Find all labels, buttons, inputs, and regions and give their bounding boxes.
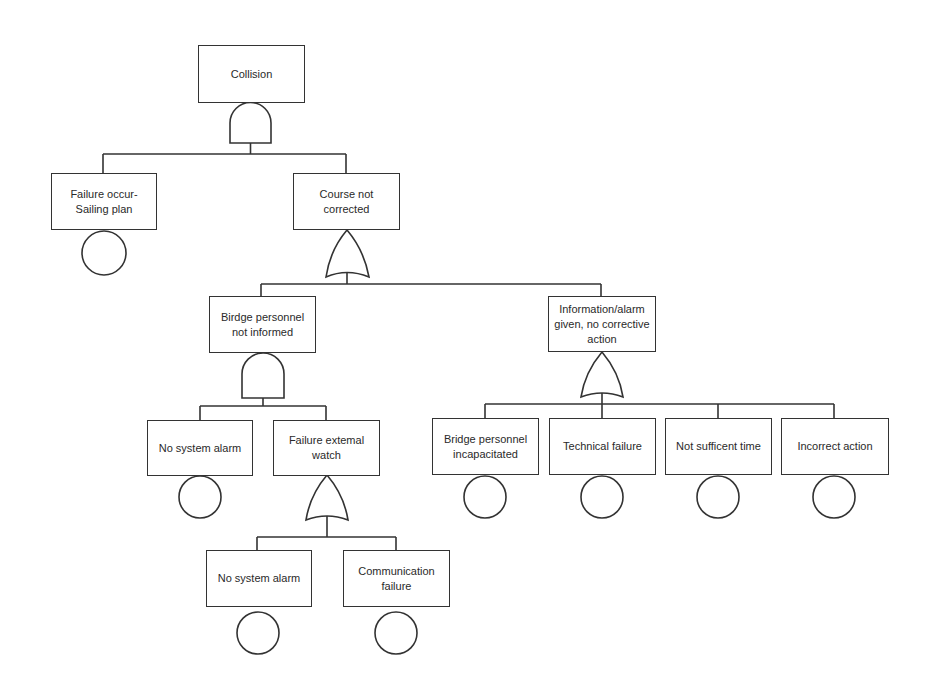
event-failure-external-watch: Failure extemal watch [273,420,380,476]
event-label: Failure occur- Sailing plan [70,187,137,217]
basic-event-circle-icon [813,476,855,518]
fault-tree-diagram: Collision Failure occur- Sailing plan Co… [0,0,938,675]
and-gate-icon [230,103,271,144]
event-bridge-incapacitated: Bridge personnel incapacitated [432,418,539,475]
event-not-sufficient-time: Not sufficent time [665,418,772,475]
event-label: Incorrect action [797,439,872,454]
event-label: Failure extemal watch [289,433,364,463]
event-no-system-alarm: No system alarm [147,420,253,476]
event-label: Not sufficent time [676,439,761,454]
basic-event-circle-icon [237,612,279,654]
event-label: Communication failure [358,564,434,594]
event-communication-failure: Communication failure [343,550,450,607]
event-incorrect-action: Incorrect action [781,418,889,475]
event-label: Collision [231,67,273,82]
event-failure-sailing-plan: Failure occur- Sailing plan [51,173,157,230]
basic-event-circle-icon [464,476,506,518]
event-label: No system alarm [218,571,301,586]
basic-event-circle-icon [375,612,417,654]
and-gate-icon [242,353,284,398]
event-label: Course not corrected [320,187,374,217]
basic-event-circle-icon [581,476,623,518]
event-label: Technical failure [563,439,642,454]
basic-event-circle-icon [697,476,739,518]
basic-event-circle-icon [82,231,126,275]
event-course-not-corrected: Course not corrected [293,173,400,230]
or-gate-icon [581,352,623,397]
connector-layer [0,0,938,675]
event-technical-failure: Technical failure [549,418,656,475]
event-collision: Collision [198,45,305,103]
event-no-system-alarm-2: No system alarm [206,550,312,607]
or-gate-icon [326,230,369,277]
or-gate-icon [306,475,348,520]
event-label: Information/alarm given, no corrective a… [554,302,649,347]
event-label: Birdge personnel not informed [221,310,304,340]
basic-event-circle-icon [179,476,221,518]
event-label: No system alarm [159,441,242,456]
event-label: Bridge personnel incapacitated [444,432,527,462]
event-bridge-not-informed: Birdge personnel not informed [209,296,316,353]
event-info-no-action: Information/alarm given, no corrective a… [548,296,656,352]
